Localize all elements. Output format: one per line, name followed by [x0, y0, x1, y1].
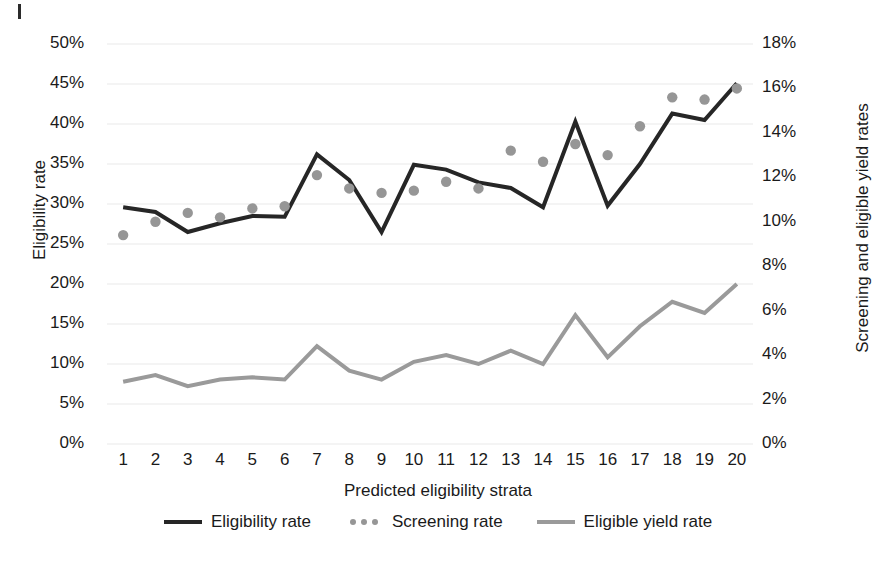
y-axis-left-tick-label: 30% [22, 193, 84, 213]
legend-line-swatch-icon [164, 520, 202, 524]
x-axis-title: Predicted eligibility strata [0, 481, 876, 501]
data-point-screening-rate [247, 203, 257, 213]
y-axis-right-tick-label: 2% [762, 389, 814, 409]
y-axis-right-tick-label: 14% [762, 122, 814, 142]
series-line-eligible-yield-rate [123, 284, 737, 386]
y-axis-left-tick-label: 0% [22, 433, 84, 453]
data-point-screening-rate [312, 170, 322, 180]
y-axis-left-tick-label: 15% [22, 313, 84, 333]
y-axis-right-tick-label: 0% [762, 433, 814, 453]
data-point-screening-rate [150, 217, 160, 227]
y-axis-left-tick-label: 10% [22, 353, 84, 373]
series-line-eligibility-rate [123, 83, 737, 232]
y-axis-right-tick-label: 6% [762, 300, 814, 320]
data-point-screening-rate [441, 177, 451, 187]
data-point-screening-rate [732, 83, 742, 93]
legend-item-eligible-yield-rate[interactable]: Eligible yield rate [537, 512, 713, 532]
data-point-screening-rate [279, 201, 289, 211]
y-axis-right-tick-label: 16% [762, 77, 814, 97]
x-axis-tick-label: 20 [717, 450, 757, 470]
legend-line-swatch-icon [537, 520, 575, 524]
data-point-screening-rate [376, 188, 386, 198]
y-axis-left-tick-label: 45% [22, 73, 84, 93]
y-axis-left-tick-label: 20% [22, 273, 84, 293]
data-point-screening-rate [344, 183, 354, 193]
chart-legend: Eligibility rateScreening rateEligible y… [0, 512, 876, 532]
y-axis-right-title: Screening and eligible yield rates [853, 63, 873, 393]
data-point-screening-rate [183, 208, 193, 218]
legend-label: Eligibility rate [211, 512, 311, 532]
y-axis-left-tick-label: 50% [22, 33, 84, 53]
data-point-screening-rate [602, 150, 612, 160]
y-axis-left-tick-label: 5% [22, 393, 84, 413]
data-point-screening-rate [215, 212, 225, 222]
data-point-screening-rate [667, 92, 677, 102]
legend-dots-swatch-icon [345, 519, 383, 525]
y-axis-right-tick-label: 10% [762, 211, 814, 231]
y-axis-right-tick-label: 4% [762, 344, 814, 364]
data-point-screening-rate [570, 139, 580, 149]
data-point-screening-rate [538, 157, 548, 167]
legend-label: Eligible yield rate [584, 512, 713, 532]
legend-item-screening-rate[interactable]: Screening rate [345, 512, 503, 532]
y-axis-left-tick-label: 25% [22, 233, 84, 253]
legend-label: Screening rate [392, 512, 503, 532]
data-point-screening-rate [699, 94, 709, 104]
chart-figure: Eligibility rate Screening and eligible … [0, 0, 876, 582]
data-point-screening-rate [473, 183, 483, 193]
y-axis-left-tick-label: 40% [22, 113, 84, 133]
data-point-screening-rate [506, 145, 516, 155]
y-axis-right-tick-label: 18% [762, 33, 814, 53]
data-point-screening-rate [118, 230, 128, 240]
data-point-screening-rate [409, 185, 419, 195]
page-corner-mark [18, 4, 21, 19]
data-point-screening-rate [635, 121, 645, 131]
legend-item-eligibility-rate[interactable]: Eligibility rate [164, 512, 311, 532]
y-axis-right-tick-label: 8% [762, 255, 814, 275]
y-axis-left-tick-label: 35% [22, 153, 84, 173]
y-axis-right-tick-label: 12% [762, 166, 814, 186]
